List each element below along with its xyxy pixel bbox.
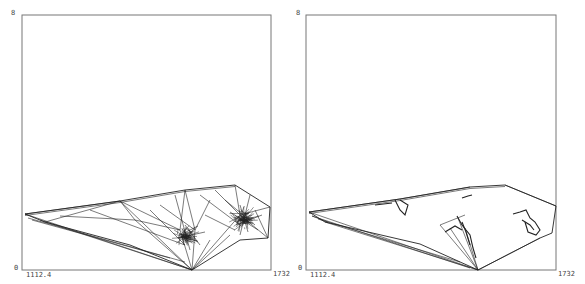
- mesh-edge: [478, 238, 540, 270]
- mesh-feature: [395, 200, 408, 215]
- mesh-edge: [325, 222, 478, 270]
- right-x-max-label: 1732: [558, 270, 575, 278]
- mesh-feature: [522, 220, 534, 230]
- mesh-edge: [400, 187, 470, 199]
- mesh-edge: [318, 219, 460, 262]
- mesh-feature: [462, 195, 472, 198]
- plot-frame: [306, 15, 556, 270]
- right-y-min-label: 0: [298, 264, 302, 272]
- right-mesh-plot: 8 0 1112.4 1732: [0, 0, 585, 284]
- mesh-edge: [309, 212, 478, 270]
- mesh-edge: [505, 185, 556, 206]
- mesh-edge: [312, 216, 328, 222]
- right-x-min-label: 1112.4: [310, 271, 335, 279]
- right-mesh-canvas: [0, 0, 585, 284]
- mesh-edge: [309, 199, 400, 212]
- right-y-max-label: 8: [296, 9, 300, 17]
- mesh-feature: [445, 226, 462, 232]
